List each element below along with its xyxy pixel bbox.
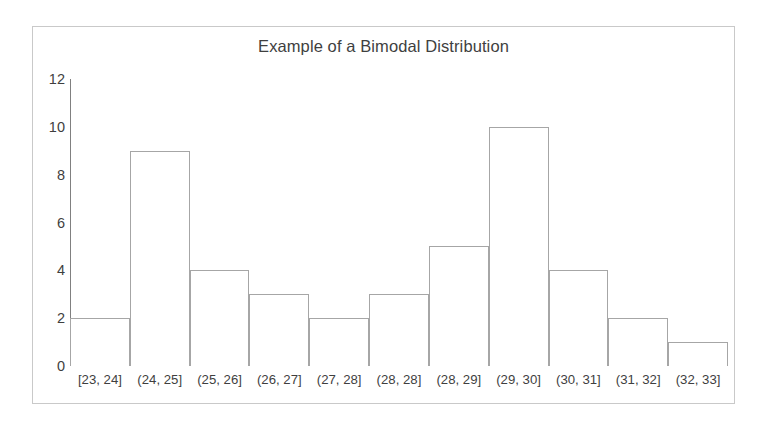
x-axis-tick-label: (32, 33] xyxy=(668,372,728,387)
bar-series xyxy=(70,79,728,366)
bar-slot xyxy=(190,79,250,366)
x-axis-tick-label: (28, 28] xyxy=(369,372,429,387)
bar-slot xyxy=(668,79,728,366)
histogram-bar[interactable] xyxy=(489,127,549,366)
bar-slot xyxy=(70,79,130,366)
y-axis-tick-label: 8 xyxy=(33,167,65,182)
histogram-bar[interactable] xyxy=(309,318,369,366)
histogram-bar[interactable] xyxy=(249,294,309,366)
chart-title: Example of a Bimodal Distribution xyxy=(33,37,734,56)
histogram-bar[interactable] xyxy=(549,270,609,366)
x-axis-tick-label: (29, 30] xyxy=(489,372,549,387)
bar-slot xyxy=(249,79,309,366)
histogram-bar[interactable] xyxy=(190,270,250,366)
histogram-bar[interactable] xyxy=(130,151,190,366)
bar-slot xyxy=(608,79,668,366)
y-axis-tick-label: 6 xyxy=(33,215,65,230)
chart-figure: Example of a Bimodal Distribution 121086… xyxy=(32,26,735,404)
x-axis-tick-label: (27, 28] xyxy=(309,372,369,387)
x-axis-tick-label: (25, 26] xyxy=(190,372,250,387)
bar-slot xyxy=(549,79,609,366)
y-axis-tick-label: 12 xyxy=(33,72,65,87)
bar-slot xyxy=(369,79,429,366)
x-axis-tick-labels: [23, 24](24, 25](25, 26](26, 27](27, 28]… xyxy=(70,372,728,387)
x-axis-tick-label: (24, 25] xyxy=(130,372,190,387)
bar-slot xyxy=(489,79,549,366)
histogram-bar[interactable] xyxy=(70,318,130,366)
y-axis-tick-label: 4 xyxy=(33,263,65,278)
bar-slot xyxy=(429,79,489,366)
histogram-bar[interactable] xyxy=(608,318,668,366)
x-axis-tick-label: (28, 29] xyxy=(429,372,489,387)
x-axis-tick-label: (30, 31] xyxy=(549,372,609,387)
y-axis-tick-labels: 121086420 xyxy=(33,79,65,366)
x-axis-tick-label: (31, 32] xyxy=(608,372,668,387)
bar-slot xyxy=(130,79,190,366)
histogram-bar[interactable] xyxy=(429,246,489,366)
y-axis-tick-label: 0 xyxy=(33,359,65,374)
x-axis-tick-label: (26, 27] xyxy=(249,372,309,387)
y-axis-tick-label: 10 xyxy=(33,120,65,135)
x-axis-tick-label: [23, 24] xyxy=(70,372,130,387)
y-axis-tick-label: 2 xyxy=(33,311,65,326)
histogram-bar[interactable] xyxy=(668,342,728,366)
histogram-bar[interactable] xyxy=(369,294,429,366)
bar-slot xyxy=(309,79,369,366)
